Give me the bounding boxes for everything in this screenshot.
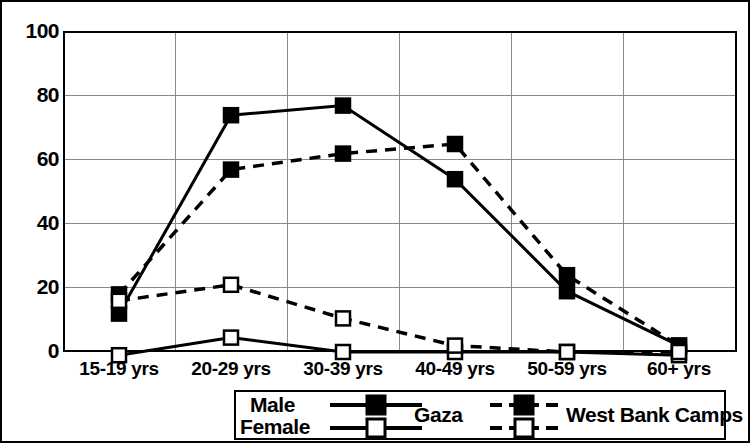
x-tick-label: 30-39 yrs [303,358,383,380]
legend-label-male: Male [250,393,295,417]
y-tick-label: 100 [7,19,59,43]
legend-swatch-solid-filled [330,396,422,414]
x-tick-label: 20-29 yrs [191,358,271,380]
y-axis: 100 80 60 40 20 0 [2,2,59,443]
legend-swatch-dashed-filled [490,396,558,414]
legend-swatch-solid-open [330,419,422,437]
plot-area [63,31,737,352]
y-tick-label: 80 [7,83,59,107]
x-tick-label: 15-19 yrs [79,358,159,380]
vgridline-2 [287,33,288,350]
legend-label-gaza: Gaza [414,403,463,427]
y-tick-label: 40 [7,211,59,235]
chart-legend: Male Female Gaza West Bank Camps [234,390,726,440]
chart-container: 100 80 60 40 20 0 15-19 yrs 20-29 yrs 30… [0,0,750,443]
x-tick-label: 40-49 yrs [415,358,495,380]
vgridline-5 [623,33,624,350]
x-tick-label: 50-59 yrs [527,358,607,380]
gridline-60 [65,159,735,160]
legend-label-female: Female [240,415,310,439]
legend-label-west-bank: West Bank Camps [566,403,743,427]
y-tick-label: 20 [7,275,59,299]
vgridline-3 [399,33,400,350]
y-tick-label: 60 [7,147,59,171]
gridline-20 [65,287,735,288]
y-tick-label: 0 [7,339,59,363]
gridline-40 [65,223,735,224]
vgridline-4 [511,33,512,350]
legend-swatch-dashed-open [490,419,558,437]
vgridline-1 [175,33,176,350]
x-tick-label: 60+ yrs [647,358,711,380]
gridline-80 [65,95,735,96]
